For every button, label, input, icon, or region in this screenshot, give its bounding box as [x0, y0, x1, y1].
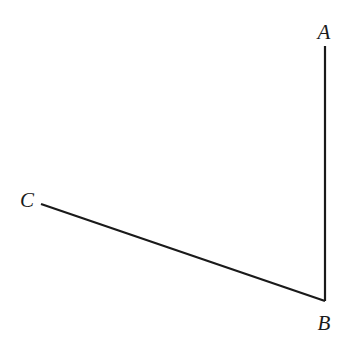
point-label-c: C: [20, 188, 35, 212]
segment-bc: [41, 204, 325, 301]
point-label-b: B: [318, 311, 331, 335]
angle-abc-diagram: A B C: [0, 0, 351, 346]
point-label-a: A: [316, 20, 331, 44]
